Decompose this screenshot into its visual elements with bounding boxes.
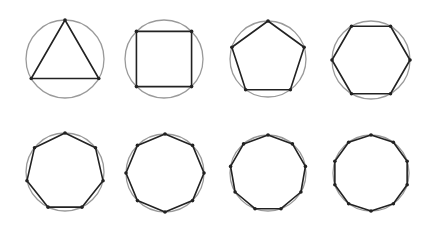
- vertex-dot: [230, 45, 234, 49]
- vertex-dot: [266, 19, 270, 23]
- vertex-dot: [242, 142, 246, 146]
- vertex-dot: [291, 142, 295, 146]
- vertex-dot: [350, 92, 354, 96]
- circumscribed-circle: [332, 21, 410, 99]
- vertex-dot: [244, 88, 248, 92]
- decagon-polygon: [335, 135, 407, 211]
- vertex-dot: [135, 85, 139, 89]
- vertex-dot: [350, 24, 354, 28]
- triangle-figure: [26, 18, 104, 98]
- vertex-dot: [94, 146, 98, 150]
- vertex-dot: [101, 179, 105, 183]
- vertex-dot: [229, 165, 233, 169]
- vertex-dot: [191, 199, 195, 203]
- vertex-dot: [163, 210, 167, 214]
- vertex-dot: [63, 131, 67, 135]
- vertex-dot: [330, 58, 334, 62]
- vertex-dot: [369, 133, 373, 137]
- vertex-dot: [302, 45, 306, 49]
- vertex-dot: [389, 92, 393, 96]
- vertex-dot: [392, 140, 396, 144]
- hexagon-figure: [330, 21, 412, 99]
- nonagon-polygon: [231, 135, 306, 209]
- inscribed-polygons-diagram: [0, 0, 433, 226]
- circumscribed-circle: [26, 20, 104, 98]
- vertex-dot: [405, 159, 409, 163]
- pentagon-figure: [230, 19, 306, 97]
- vertex-dot: [25, 179, 29, 183]
- square-figure: [125, 20, 203, 98]
- circumscribed-circle: [333, 135, 409, 211]
- nonagon-figure: [229, 133, 307, 211]
- vertex-dot: [97, 77, 101, 81]
- vertex-dot: [279, 207, 283, 211]
- vertex-dot: [136, 199, 140, 203]
- vertex-dot: [190, 30, 194, 34]
- vertex-dot: [408, 58, 412, 62]
- vertex-dot: [80, 205, 84, 209]
- vertex-dot: [202, 171, 206, 175]
- vertex-dot: [253, 207, 257, 211]
- square-polygon: [136, 31, 191, 86]
- circumscribed-circle: [26, 133, 104, 211]
- vertex-dot: [191, 144, 195, 148]
- decagon-figure: [333, 133, 409, 213]
- vertex-dot: [299, 190, 303, 194]
- vertex-dot: [405, 183, 409, 187]
- vertex-dot: [163, 132, 167, 136]
- vertex-dot: [190, 85, 194, 89]
- hexagon-polygon: [332, 26, 410, 94]
- vertex-dot: [63, 18, 67, 22]
- vertex-dot: [289, 88, 293, 92]
- vertex-dot: [33, 146, 37, 150]
- vertex-dot: [369, 209, 373, 213]
- heptagon-figure: [25, 131, 105, 211]
- vertex-dot: [347, 140, 351, 144]
- vertex-dot: [347, 202, 351, 206]
- octagon-figure: [124, 132, 206, 214]
- vertex-dot: [266, 133, 270, 137]
- vertex-dot: [389, 24, 393, 28]
- vertex-dot: [29, 77, 33, 81]
- vertex-dot: [46, 205, 50, 209]
- vertex-dot: [233, 190, 237, 194]
- vertex-dot: [333, 183, 337, 187]
- vertex-dot: [304, 165, 308, 169]
- vertex-dot: [136, 144, 140, 148]
- vertex-dot: [392, 202, 396, 206]
- vertex-dot: [333, 159, 337, 163]
- circumscribed-circle: [230, 21, 306, 97]
- vertex-dot: [135, 30, 139, 34]
- vertex-dot: [124, 171, 128, 175]
